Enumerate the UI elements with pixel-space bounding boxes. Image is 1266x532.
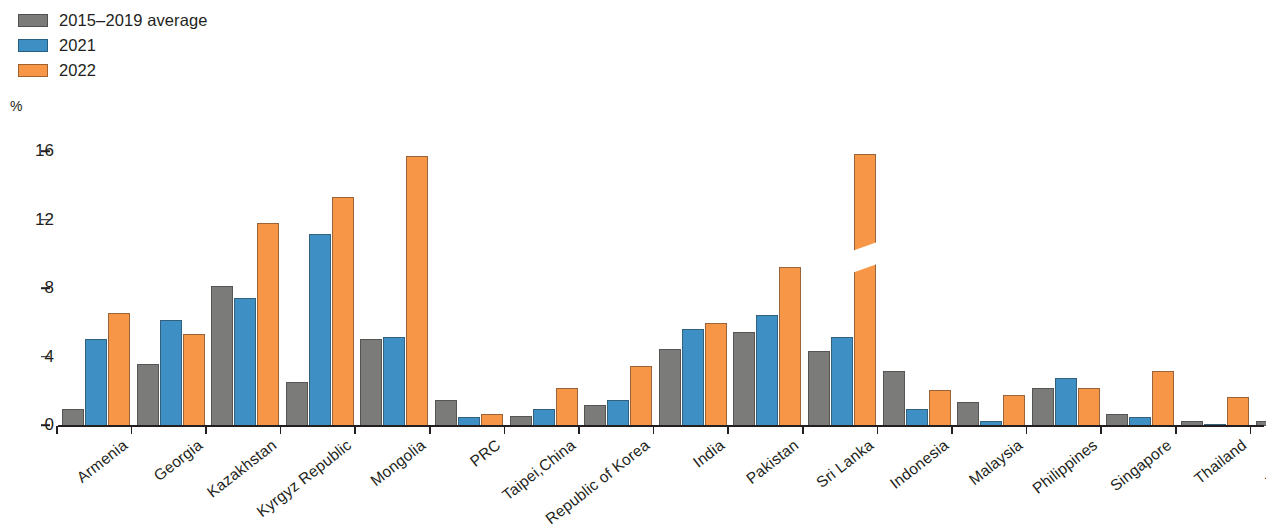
x-axis-label: Singapore xyxy=(1107,436,1175,495)
x-axis-label: Pakistan xyxy=(743,436,802,488)
x-axis-label: Sri Lanka xyxy=(813,436,877,492)
bar-chart: 2015–2019 average 2021 2022 % 0481216 30… xyxy=(0,0,1266,532)
x-axis-label: Kazakhstan xyxy=(204,436,280,501)
x-axis-label: Malaysia xyxy=(966,436,1027,489)
x-axis-label: Indonesia xyxy=(886,436,951,493)
x-axis-category-labels: ArmeniaGeorgiaKazakhstanKyrgyz RepublicM… xyxy=(0,0,1266,532)
x-axis-label: PRC xyxy=(467,436,504,471)
x-axis-label: Viet Nam xyxy=(1262,436,1266,490)
x-axis-label: Mongolia xyxy=(368,436,430,490)
x-axis-label: Thailand xyxy=(1191,436,1250,488)
x-axis-label: Georgia xyxy=(150,436,206,485)
x-axis-label: Philippines xyxy=(1029,436,1101,498)
x-axis-label: India xyxy=(690,436,728,472)
x-axis-label: Armenia xyxy=(73,436,131,487)
